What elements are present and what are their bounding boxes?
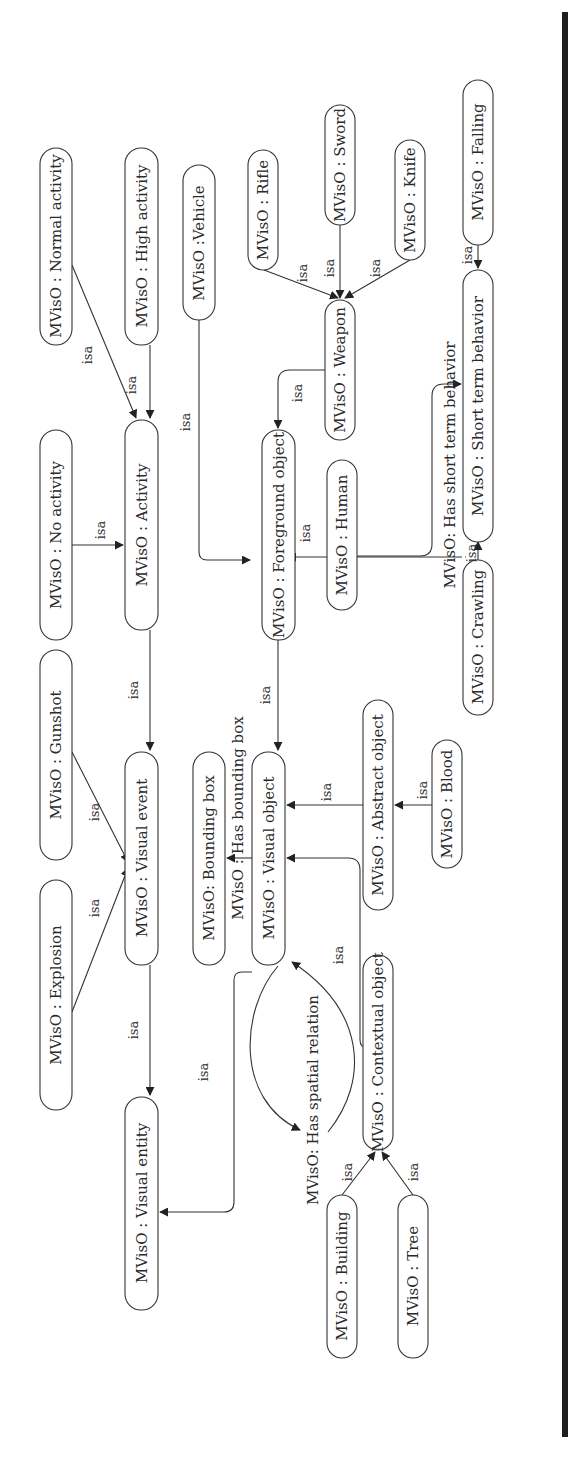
node-label: MVisO : Falling <box>469 103 487 221</box>
node-label: MVisO : Crawling <box>469 569 487 704</box>
node-label: MVisO : Tree <box>404 1226 422 1326</box>
isa-label: isa <box>290 383 305 402</box>
isa-label: isa <box>196 1062 211 1081</box>
isa-label: isa <box>460 245 475 264</box>
has-short-term-behavior-label: MVisO: Has short term behavior <box>441 341 459 589</box>
node-label: MVisO : High activity <box>133 164 151 328</box>
edge-vehicle-to-foreground <box>199 320 250 560</box>
node-label: MVisO : No activity <box>47 460 65 609</box>
page-edge-bar <box>562 12 568 1437</box>
node-label: MVisO : Foreground object <box>270 432 288 638</box>
node-contextual-object[interactable]: MVisO : Contextual object <box>363 952 393 1152</box>
node-explosion[interactable]: MVisO : Explosion <box>40 880 72 1110</box>
node-label: MVisO : Visual event <box>133 779 151 937</box>
edge-labels: isa isa isa isa isa isa isa isa isa isa … <box>80 245 479 1181</box>
node-label: MVisO : Weapon <box>331 307 349 433</box>
nodes: MVisO : Normal activity MVisO : High act… <box>40 80 493 1358</box>
isa-label: isa <box>126 680 141 699</box>
isa-label: isa <box>87 802 102 821</box>
node-label: MVisO : Human <box>333 474 351 595</box>
node-rifle[interactable]: MVisO : Rifle <box>248 150 278 270</box>
isa-label: isa <box>87 898 102 917</box>
node-vehicle[interactable]: MVisO :Vehicle <box>183 165 215 320</box>
node-label: MVisO : Explosion <box>47 925 65 1065</box>
isa-label: isa <box>295 263 310 282</box>
isa-label: isa <box>258 685 273 704</box>
node-label: MVisO : Normal activity <box>47 154 65 338</box>
node-label: MVisO :Vehicle <box>190 185 208 301</box>
node-label: MVisO : Gunshot <box>47 690 65 819</box>
has-bounding-box-label: MVisO : Has bounding box <box>229 716 247 920</box>
node-label: MVisO : Activity <box>133 463 151 587</box>
isa-label: isa <box>331 945 346 964</box>
node-foreground-object[interactable]: MVisO : Foreground object <box>262 430 295 640</box>
ontology-diagram: MVisO : Normal activity MVisO : High act… <box>0 0 571 1461</box>
node-falling[interactable]: MVisO : Falling <box>463 80 493 245</box>
node-crawling[interactable]: MVisO : Crawling <box>463 560 493 715</box>
node-bounding-box[interactable]: MVisO: Bounding box <box>193 752 225 965</box>
node-human[interactable]: MVisO : Human <box>327 460 357 610</box>
node-no-activity[interactable]: MVisO : No activity <box>40 430 72 640</box>
node-abstract-object[interactable]: MVisO : Abstract object <box>363 700 393 910</box>
edge-spatial-relation-out <box>250 966 300 1130</box>
isa-label: isa <box>340 1162 355 1181</box>
node-visual-event[interactable]: MVisO : Visual event <box>125 752 158 965</box>
node-visual-object[interactable]: MVisO : Visual object <box>252 752 285 965</box>
edge-contextual-to-visual-object <box>287 858 368 1048</box>
node-blood[interactable]: MVisO : Blood <box>432 740 462 868</box>
isa-label: isa <box>80 345 95 364</box>
node-tree[interactable]: MVisO : Tree <box>398 1195 428 1358</box>
node-label: MVisO : Contextual object <box>369 952 387 1152</box>
node-label: MVisO: Bounding box <box>200 775 218 941</box>
node-normal-activity[interactable]: MVisO : Normal activity <box>40 148 72 345</box>
isa-label: isa <box>415 780 430 799</box>
isa-label: isa <box>93 520 108 539</box>
node-sword[interactable]: MVisO : Sword <box>325 105 355 225</box>
node-activity[interactable]: MVisO : Activity <box>125 420 158 630</box>
node-label: MVisO : Building <box>333 1211 351 1341</box>
edge-spatial-relation-in <box>292 962 355 1132</box>
node-weapon[interactable]: MVisO : Weapon <box>325 300 355 440</box>
edges <box>72 225 478 1212</box>
isa-label: isa <box>124 375 139 394</box>
isa-label: isa <box>126 1020 141 1039</box>
node-knife[interactable]: MVisO : Knife <box>395 140 425 260</box>
node-high-activity[interactable]: MVisO : High activity <box>125 148 158 345</box>
edge-explosion-to-visual-event <box>72 868 128 1012</box>
node-label: MVisO : Sword <box>331 107 349 222</box>
node-label: MVisO : Blood <box>438 749 456 858</box>
isa-label: isa <box>298 523 313 542</box>
isa-label: isa <box>464 543 479 562</box>
node-gunshot[interactable]: MVisO : Gunshot <box>40 650 72 860</box>
node-visual-entity[interactable]: MVisO : Visual entity <box>125 1097 158 1310</box>
node-label: MVisO : Abstract object <box>369 714 387 895</box>
isa-label: isa <box>368 258 383 277</box>
node-short-term-behavior[interactable]: MVisO : Short term behavior <box>463 270 493 542</box>
isa-label: isa <box>178 412 193 431</box>
node-label: MVisO : Short term behavior <box>469 295 487 516</box>
node-label: MVisO : Rifle <box>254 160 272 260</box>
node-label: MVisO : Visual entity <box>133 1122 151 1283</box>
isa-label: isa <box>319 782 334 801</box>
isa-label: isa <box>406 1162 421 1181</box>
has-spatial-relation-label: MVisO: Has spatial relation <box>304 995 322 1205</box>
edge-visual-object-to-visual-entity <box>160 972 252 1212</box>
node-label: MVisO : Knife <box>401 147 419 253</box>
node-label: MVisO : Visual object <box>260 776 278 939</box>
isa-label: isa <box>322 258 337 277</box>
node-building[interactable]: MVisO : Building <box>327 1195 357 1358</box>
